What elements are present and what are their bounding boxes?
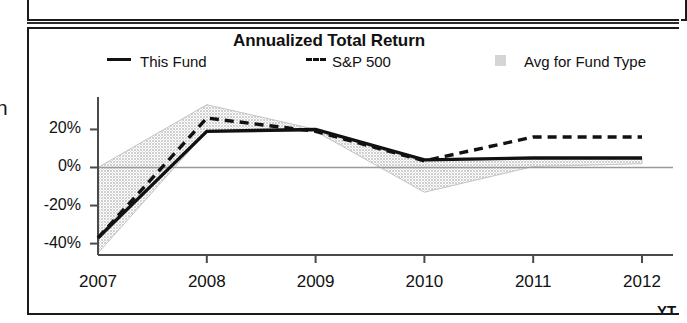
y-axis-tick-label: -20% (27, 196, 81, 214)
x-axis-tick-label: 2011 (498, 272, 568, 292)
x-axis-tick-label: 2009 (281, 272, 351, 292)
x-axis-suffix-label: YT (657, 302, 676, 315)
plot-area: 20%0%-20%-40% 200720082009201020112012 Y… (29, 29, 681, 315)
x-axis-tick-label: 2008 (172, 272, 242, 292)
y-axis-tick-label: 0% (27, 157, 81, 175)
x-axis-tick-label: 2012 (607, 272, 677, 292)
chart-panel: Annualized Total Return This Fund S&P 50… (27, 27, 681, 315)
x-axis-ticks (207, 255, 642, 263)
clipped-panel-above (27, 0, 687, 21)
x-axis-tick-label: 2010 (389, 272, 459, 292)
y-axis-tick-label: -40% (27, 234, 81, 252)
panel-divider-line (27, 22, 681, 24)
x-axis-tick-label: 2007 (63, 272, 133, 292)
clipped-margin-glyph: n (0, 96, 8, 120)
right-edge-bleed (679, 0, 681, 323)
y-axis-ticks (90, 129, 98, 243)
avg-fund-type-band (98, 105, 642, 253)
y-axis-tick-label: 20% (27, 119, 81, 137)
